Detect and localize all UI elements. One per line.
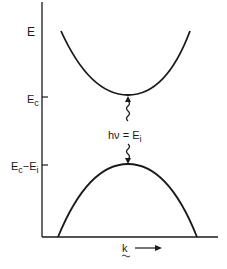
- k-tilde: [122, 255, 130, 257]
- transition-label: hν = Ei: [108, 129, 142, 144]
- lower-wavy-arrow: [125, 144, 131, 164]
- ec-label: Ec: [27, 93, 39, 108]
- valence-band-curve: [58, 164, 197, 237]
- band-diagram: E Ec Ec−Ei hν = Ei k: [0, 0, 227, 269]
- x-axis-label: k: [122, 242, 128, 254]
- y-axis-label: E: [27, 25, 35, 39]
- upper-wavy-arrow: [125, 96, 131, 121]
- conduction-band-curve: [61, 31, 190, 95]
- ec-minus-ei-label: Ec−Ei: [11, 160, 39, 175]
- x-direction-arrow-icon: [135, 245, 162, 251]
